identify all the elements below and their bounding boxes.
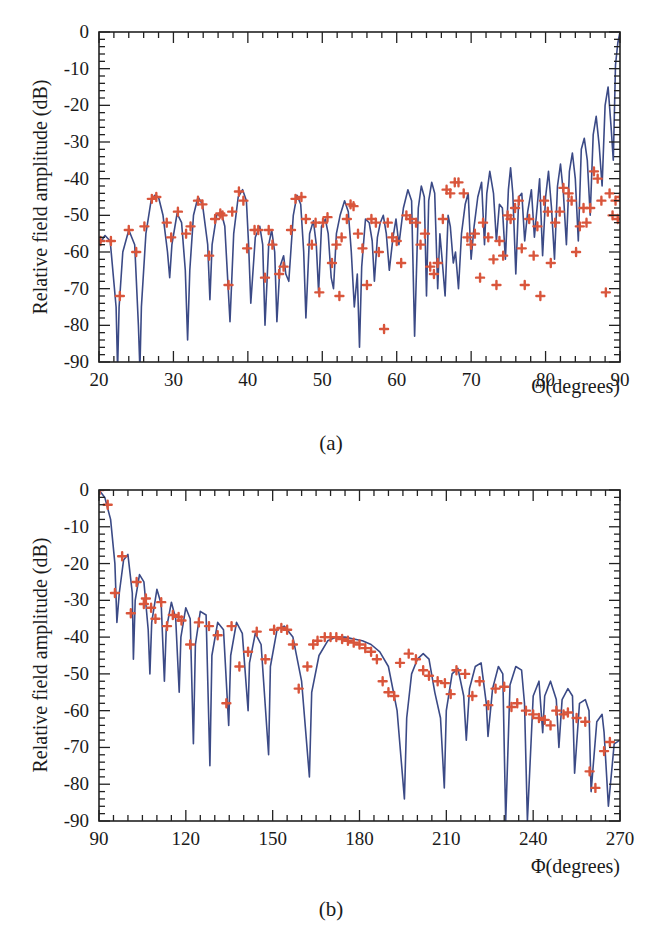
plus-marker (358, 244, 366, 252)
plus-marker (591, 784, 599, 792)
plus-marker (235, 188, 243, 196)
chart-panel-b: 901201501802102402700-10-20-30-40-50-60-… (29, 479, 634, 921)
y-axis-title-a: Relative field amplitude (dB) (29, 80, 52, 315)
plus-marker (581, 718, 589, 726)
x-tick-label: 210 (432, 828, 461, 849)
panel-caption-a: (a) (319, 431, 342, 455)
plus-marker (186, 640, 194, 648)
y-tick-label: -50 (64, 204, 89, 225)
plus-marker (597, 197, 605, 205)
y-axis-title-b: Relative field amplitude (dB) (29, 538, 52, 773)
plus-marker (586, 204, 594, 212)
plus-marker (132, 248, 140, 256)
x-tick-label: 240 (519, 828, 548, 849)
plus-marker (547, 721, 555, 729)
plus-marker (303, 663, 311, 671)
plus-marker (412, 655, 420, 663)
x-tick-label: 150 (258, 828, 287, 849)
y-tick-label: 0 (80, 479, 90, 500)
plus-marker (275, 270, 283, 278)
plus-marker (379, 677, 387, 685)
panel-caption-b: (b) (319, 897, 344, 921)
plus-marker (363, 281, 371, 289)
y-tick-label: -30 (64, 131, 89, 152)
plus-marker (476, 274, 484, 282)
x-axis-title-a: Θ(degrees) (531, 375, 620, 398)
plus-marker (195, 618, 203, 626)
plus-marker (600, 747, 608, 755)
y-tick-label: -50 (64, 663, 89, 684)
x-axis-title-b: Φ(degrees) (531, 855, 620, 878)
sample-markers (96, 486, 614, 792)
x-tick-label: 60 (387, 369, 406, 390)
plus-marker (335, 292, 343, 300)
plot-area-a (96, 32, 624, 369)
x-tick-label: 180 (345, 828, 374, 849)
plus-marker (489, 255, 497, 263)
plus-marker (228, 208, 236, 216)
plus-marker (380, 325, 388, 333)
plus-marker (163, 622, 171, 630)
plus-marker (572, 248, 580, 256)
y-tick-label: -10 (64, 58, 89, 79)
chart-panel-a: 20304050607080900-10-20-30-40-50-60-70-8… (29, 21, 630, 455)
plus-marker (492, 281, 500, 289)
plus-marker (373, 655, 381, 663)
plus-marker (521, 281, 529, 289)
x-tick-label: 30 (164, 369, 183, 390)
figure: 20304050607080900-10-20-30-40-50-60-70-8… (0, 0, 662, 937)
y-tick-label: -80 (64, 314, 89, 335)
plus-marker (439, 215, 447, 223)
plus-marker (461, 670, 469, 678)
plus-marker (228, 622, 236, 630)
y-tick-label: -90 (64, 810, 89, 831)
plus-marker (354, 230, 362, 238)
plus-marker (606, 189, 614, 197)
y-tick-label: -90 (64, 351, 89, 372)
y-tick-label: -60 (64, 241, 89, 262)
plus-marker (419, 666, 427, 674)
plus-marker (253, 628, 261, 636)
plus-marker (174, 208, 182, 216)
plus-marker (405, 650, 413, 658)
plus-marker (500, 683, 508, 691)
plus-marker (116, 292, 124, 300)
plus-marker (332, 241, 340, 249)
y-tick-label: -40 (64, 626, 89, 647)
plus-marker (243, 244, 251, 252)
x-tick-label: 270 (606, 828, 635, 849)
plus-marker (559, 184, 567, 192)
x-tick-label: 20 (90, 369, 109, 390)
plus-marker (338, 233, 346, 241)
plus-marker (157, 598, 165, 606)
y-tick-label: -20 (64, 94, 89, 115)
plot-area-b (96, 486, 620, 821)
plus-marker (606, 738, 614, 746)
y-tick-label: -20 (64, 553, 89, 574)
plus-marker (518, 244, 526, 252)
plus-marker (397, 259, 405, 267)
y-tick-label: -30 (64, 589, 89, 610)
plus-marker (127, 609, 135, 617)
y-tick-label: -60 (64, 700, 89, 721)
x-tick-label: 120 (172, 828, 201, 849)
plus-marker (235, 663, 243, 671)
plus-marker (125, 226, 133, 234)
y-tick-label: -40 (64, 168, 89, 189)
y-tick-label: -70 (64, 278, 89, 299)
plus-marker (396, 659, 404, 667)
y-tick-label: -10 (64, 516, 89, 537)
plus-marker (530, 252, 538, 260)
plus-marker (289, 640, 297, 648)
y-tick-label: 0 (80, 21, 90, 42)
y-tick-label: -70 (64, 736, 89, 757)
plus-marker (460, 189, 468, 197)
y-tick-label: -80 (64, 773, 89, 794)
x-tick-label: 70 (462, 369, 481, 390)
x-tick-label: 50 (313, 369, 332, 390)
plus-marker (547, 259, 555, 267)
plus-marker (536, 292, 544, 300)
x-tick-label: 40 (238, 369, 257, 390)
plus-marker (315, 288, 323, 296)
plus-marker (111, 589, 119, 597)
